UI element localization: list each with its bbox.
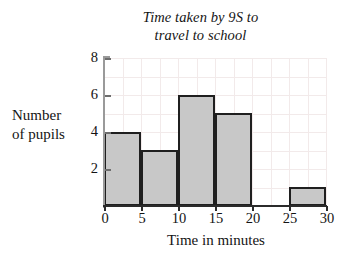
y-tick-mark [105, 132, 111, 134]
x-tick-label: 10 [166, 211, 192, 226]
bar-5-10 [141, 150, 178, 206]
bar-25-30 [289, 187, 326, 206]
x-tick-label: 0 [92, 211, 118, 226]
y-tick-label: 6 [76, 87, 98, 102]
x-tick-label: 20 [240, 211, 266, 226]
gridline-vertical [326, 58, 327, 206]
x-tick-label: 5 [129, 211, 155, 226]
gridline-horizontal [104, 58, 326, 59]
chart-title: Time taken by 9S to travel to school [103, 8, 298, 44]
chart-title-line-2: travel to school [103, 26, 298, 44]
y-tick-label: 4 [76, 124, 98, 139]
gridline-horizontal [104, 95, 326, 96]
x-tick-label: 15 [203, 211, 229, 226]
y-tick-mark [105, 169, 111, 171]
chart-title-line-1: Time taken by 9S to [103, 8, 298, 26]
bar-10-15 [178, 95, 215, 206]
x-axis-label: Time in minutes [100, 232, 332, 249]
y-tick-mark [105, 95, 111, 97]
y-tick-mark [105, 58, 111, 60]
gridline-horizontal [104, 77, 326, 78]
y-tick-label: 8 [76, 50, 98, 65]
x-tick-label: 25 [277, 211, 303, 226]
plot-area [104, 58, 326, 206]
bar-15-20 [215, 113, 252, 206]
x-tick-label: 30 [314, 211, 340, 226]
histogram-chart: Time taken by 9S to travel to school Num… [0, 0, 347, 263]
y-tick-label: 2 [76, 161, 98, 176]
y-axis-label-line-1: Number [12, 106, 90, 125]
